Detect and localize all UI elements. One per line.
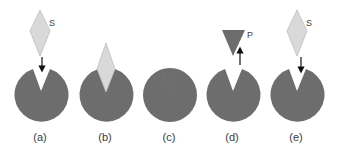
panel-label-e: (e) xyxy=(276,131,316,143)
panel-b xyxy=(80,43,134,122)
substrate-label-e: S xyxy=(306,18,312,28)
panel-a xyxy=(15,10,69,122)
panel-label-d: (d) xyxy=(212,131,252,143)
enzyme-open-e xyxy=(271,69,325,122)
product-triangle-d xyxy=(222,30,245,56)
panel-e xyxy=(271,10,325,122)
substrate-label-a: S xyxy=(49,18,55,28)
enzyme-open-d xyxy=(206,69,260,122)
substrate-diamond-a xyxy=(30,10,50,56)
panel-d xyxy=(206,30,260,122)
panel-label-c: (c) xyxy=(149,131,189,143)
substrate-diamond-e xyxy=(287,10,307,56)
panel-label-b: (b) xyxy=(85,131,125,143)
enzyme-open-a xyxy=(15,69,69,122)
enzyme-closed-c xyxy=(143,68,197,122)
panel-label-a: (a) xyxy=(20,131,60,143)
panel-c xyxy=(143,68,197,122)
product-label-d: P xyxy=(247,30,253,40)
